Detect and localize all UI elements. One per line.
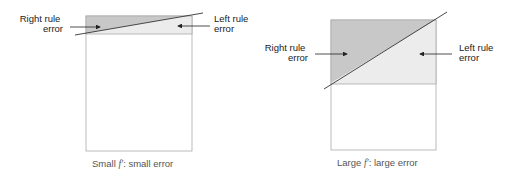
rectangle-outline bbox=[86, 16, 192, 151]
caption-large: Large f′: large error bbox=[337, 157, 418, 168]
left-panel-small-derivative: Right rule error Left rule error Small f… bbox=[20, 13, 251, 169]
caption-small: Small f′: small error bbox=[92, 158, 173, 169]
left-rule-label: Left rule error bbox=[459, 42, 496, 63]
left-rule-label: Left rule error bbox=[214, 13, 251, 34]
right-panel-large-derivative: Right rule error Left rule error Large f… bbox=[265, 12, 496, 168]
right-rule-label: Right rule error bbox=[265, 42, 308, 63]
right-rule-label: Right rule error bbox=[20, 13, 63, 34]
rule-error-diagram: Right rule error Left rule error Small f… bbox=[0, 0, 512, 176]
